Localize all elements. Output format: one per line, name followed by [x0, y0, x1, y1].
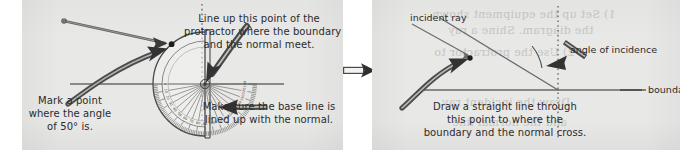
- callout-bottom-left-line-2: where the angle: [22, 107, 122, 120]
- callout-bottom-line-2: this point to where the: [380, 113, 630, 126]
- left-panel-step-1: 1801701601501401301201101009080706050403…: [22, 0, 343, 150]
- callout-bottom-left-line-1: Mark a point: [22, 94, 122, 107]
- marked-point-on-ray: [467, 55, 472, 60]
- callout-bottom: Draw a straight line through this point …: [380, 100, 630, 139]
- callout-bottom-right-line-1: Make sure the base line is: [194, 100, 343, 113]
- callout-bottom-left: Mark a point where the angle of 50° is.: [22, 94, 122, 133]
- svg-text:10: 10: [164, 88, 169, 93]
- figure-root: 1801701601501401301201101009080706050403…: [0, 0, 689, 150]
- callout-bottom-right: Make sure the base line is lined up with…: [194, 100, 343, 126]
- callout-arrow-thin-to-point: [62, 19, 168, 50]
- incident-ray-leader: [412, 24, 471, 59]
- callout-bottom-line-1: Draw a straight line through: [380, 100, 630, 113]
- callout-top-right-line-2: protractor where the boundary: [184, 25, 334, 38]
- svg-text:170: 170: [242, 87, 247, 94]
- callout-top-right-line-3: and the normal meet.: [184, 38, 334, 51]
- label-boundary: boundary: [648, 84, 680, 96]
- incident-ray-line: [440, 18, 558, 90]
- marked-point-50deg: [169, 41, 175, 47]
- angle-arc: [532, 46, 542, 68]
- svg-text:0: 0: [163, 83, 167, 85]
- label-incident-ray: incident ray: [410, 12, 467, 24]
- callout-bottom-right-line-2: lined up with the normal.: [194, 113, 343, 126]
- callout-bottom-left-line-3: of 50° is.: [22, 120, 122, 133]
- callout-top-right-line-1: Line up this point of the: [184, 12, 334, 25]
- svg-text:180: 180: [243, 81, 247, 87]
- right-panel-step-2: 1) Set up the equipment shown the diagra…: [372, 0, 680, 150]
- callout-top-right: Line up this point of the protractor whe…: [184, 12, 334, 51]
- label-angle-of-incidence: angle of incidence: [570, 44, 657, 56]
- callout-bottom-line-3: boundary and the normal cross.: [380, 126, 630, 139]
